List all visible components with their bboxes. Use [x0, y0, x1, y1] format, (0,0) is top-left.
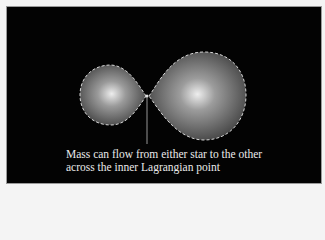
caption-line-1: Mass can flow from either star to the ot… — [66, 148, 316, 161]
right-star — [149, 52, 246, 140]
caption-line-2: across the inner Lagrangian point — [66, 161, 316, 174]
caption: Mass can flow from either star to the ot… — [66, 148, 316, 174]
left-star — [80, 65, 146, 125]
